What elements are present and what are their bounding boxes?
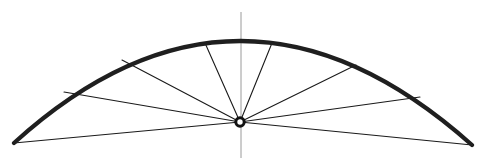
- arch-diagram-figure: [0, 0, 487, 162]
- hub-inner-core: [238, 120, 242, 124]
- arch-diagram-canvas: [0, 0, 487, 162]
- center-hub: [236, 118, 244, 126]
